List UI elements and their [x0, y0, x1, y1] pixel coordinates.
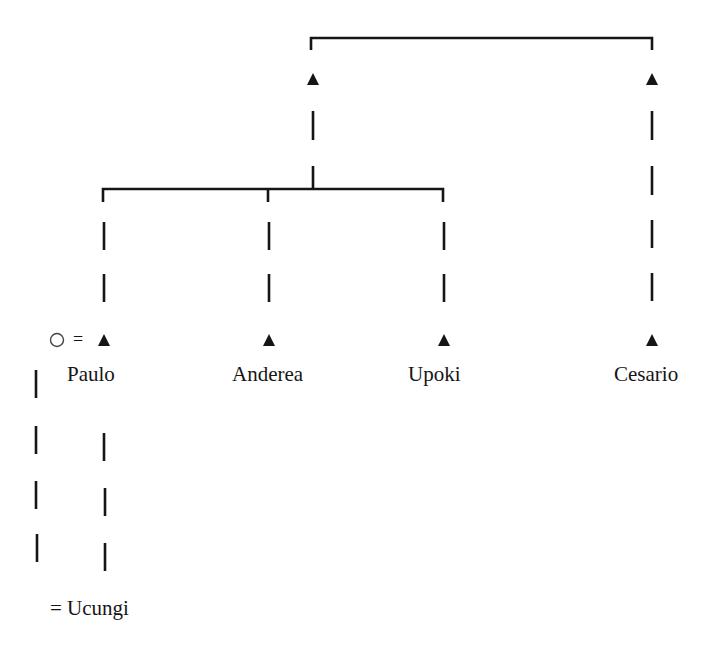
person-label-cesario: Cesario — [614, 364, 678, 385]
male-triangle-icon — [263, 334, 275, 346]
person-label-paulo: Paulo — [67, 364, 115, 385]
kinship-diagram: = Paulo Anderea Upoki Cesario = Ucungi — [0, 0, 717, 649]
top-sibling-bracket — [311, 38, 652, 50]
person-label-upoki: Upoki — [408, 364, 461, 385]
person-label-ucungi: = Ucungi — [50, 598, 129, 619]
male-triangle-icon — [646, 73, 658, 85]
person-label-anderea: Anderea — [232, 364, 303, 385]
male-triangle-icon — [98, 334, 110, 346]
marriage-sign: = — [73, 330, 83, 348]
female-circle-icon — [51, 334, 64, 347]
male-triangle-icon — [646, 334, 658, 346]
male-triangle-icon — [307, 73, 319, 85]
male-triangle-icon — [438, 334, 450, 346]
child-sibling-bracket — [103, 189, 443, 202]
diagram-svg — [0, 0, 717, 649]
